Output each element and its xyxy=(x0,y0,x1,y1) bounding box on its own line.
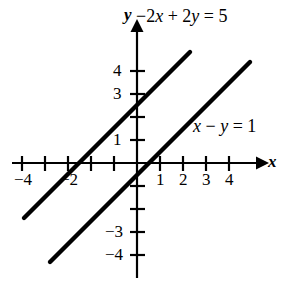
equation-line1-a: −2 xyxy=(136,6,155,26)
line-minus2x-plus-2y-equals-5 xyxy=(24,52,190,218)
equation-line1-c: 5 xyxy=(218,6,227,26)
x-tick-label-4: 4 xyxy=(225,171,234,188)
equation-line2-minus: − xyxy=(206,116,216,136)
x-tick-label-2: 2 xyxy=(179,171,188,188)
equation-label-line2: x − y = 1 xyxy=(193,117,256,135)
equation-line1-b: 2 xyxy=(182,6,191,26)
equation-line2-equals: = xyxy=(233,116,243,136)
y-tick-label-4: 4 xyxy=(113,62,122,79)
equation-line1-y: y xyxy=(191,6,199,26)
equation-line1-equals: = xyxy=(204,6,214,26)
equation-line2-c: 1 xyxy=(247,116,256,136)
y-tick-label-neg3: −3 xyxy=(105,223,123,240)
equation-line1-x: x xyxy=(155,6,163,26)
equation-line2-x: x xyxy=(193,116,201,136)
y-tick-label-3: 3 xyxy=(113,85,122,102)
graph-figure: y x −2x + 2y = 5 x − y = 1 4 3 1 −3 −4 −… xyxy=(0,0,302,285)
x-tick-label-neg2: −2 xyxy=(60,171,78,188)
x-tick-label-3: 3 xyxy=(202,171,211,188)
x-tick-label-1: 1 xyxy=(156,171,165,188)
y-axis-label: y xyxy=(124,6,132,23)
coordinate-plane xyxy=(0,0,302,285)
equation-line2-y: y xyxy=(220,116,228,136)
equation-line1-plus: + xyxy=(168,6,178,26)
y-tick-label-neg4: −4 xyxy=(105,246,123,263)
x-tick-label-neg4: −4 xyxy=(14,171,32,188)
y-tick-label-1: 1 xyxy=(113,131,122,148)
x-axis-label: x xyxy=(268,153,277,170)
equation-label-line1: −2x + 2y = 5 xyxy=(136,7,227,25)
